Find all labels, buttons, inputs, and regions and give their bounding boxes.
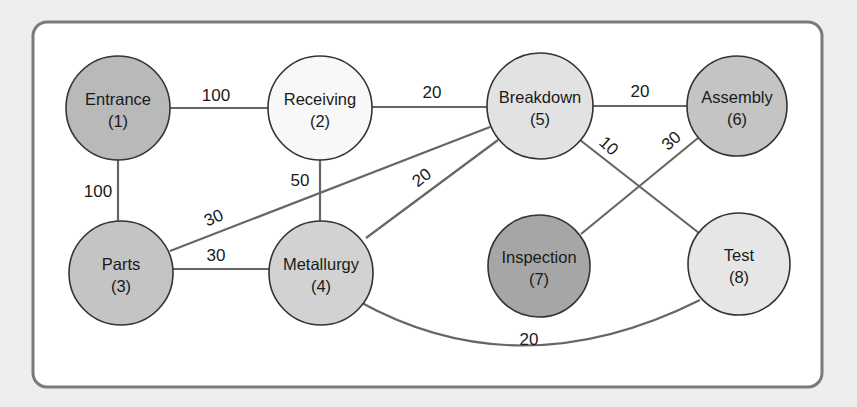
node-number: (1)	[108, 112, 128, 130]
diagram-canvas: Entrance(1)Receiving(2)Parts(3)Metallurg…	[0, 0, 857, 407]
edge-weight-label: 50	[291, 171, 310, 190]
node-receiving: Receiving(2)	[268, 56, 372, 160]
node-inspection: Inspection(7)	[488, 215, 590, 317]
edge-weight-label: 100	[202, 86, 230, 105]
edge-weight-label: 20	[423, 83, 442, 102]
node-circle	[688, 213, 790, 315]
edge-weight-label: 30	[207, 246, 226, 265]
node-name: Entrance	[85, 90, 151, 108]
node-name: Parts	[102, 255, 141, 273]
node-assembly: Assembly(6)	[687, 56, 787, 156]
node-breakdown: Breakdown(5)	[487, 53, 593, 159]
node-circle	[488, 215, 590, 317]
edge-weight-label: 20	[520, 330, 539, 349]
node-number: (7)	[529, 270, 549, 288]
node-circle	[69, 221, 173, 325]
node-circle	[487, 53, 593, 159]
node-circle	[66, 56, 170, 160]
node-name: Breakdown	[499, 88, 582, 106]
node-circle	[269, 221, 373, 325]
node-name: Inspection	[501, 248, 576, 266]
node-circle	[687, 56, 787, 156]
node-metallurgy: Metallurgy(4)	[269, 221, 373, 325]
node-entrance: Entrance(1)	[66, 56, 170, 160]
node-parts: Parts(3)	[69, 221, 173, 325]
node-number: (2)	[310, 112, 330, 130]
node-name: Test	[724, 246, 755, 264]
edge-weight-label: 100	[84, 182, 112, 201]
edge-weight-label: 20	[631, 82, 650, 101]
relationship-diagram: Entrance(1)Receiving(2)Parts(3)Metallurg…	[0, 0, 857, 407]
node-name: Receiving	[284, 90, 356, 108]
node-number: (4)	[311, 277, 331, 295]
node-number: (5)	[530, 110, 550, 128]
node-number: (8)	[729, 268, 749, 286]
node-number: (6)	[727, 110, 747, 128]
node-number: (3)	[111, 277, 131, 295]
node-name: Assembly	[701, 88, 773, 106]
node-circle	[268, 56, 372, 160]
node-test: Test(8)	[688, 213, 790, 315]
node-name: Metallurgy	[283, 255, 360, 273]
